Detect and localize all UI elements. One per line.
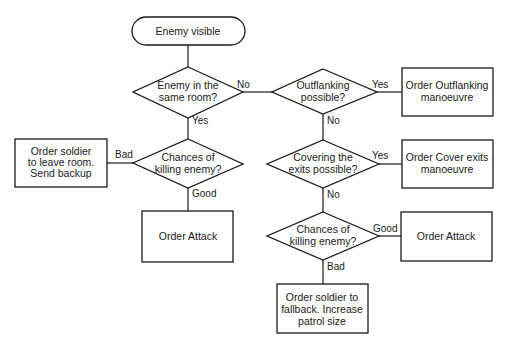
node-covering-line1: Covering the [293,151,353,163]
node-attack-left-text: Order Attack [159,230,218,242]
node-covering: Covering the exits possible? [267,140,379,188]
node-start: Enemy visible [132,17,245,45]
node-order-outflanking: Order Outflanking manoeuvre [402,68,493,116]
node-order-outflanking-line2: manoeuvre [421,91,474,103]
edge-label-no: No [327,189,340,200]
edge-label-no: No [237,79,250,90]
edge-label-yes: Yes [372,150,388,161]
node-order-outflanking-line1: Order Outflanking [406,79,489,91]
node-chances-right-line2: killing enemy? [290,235,357,247]
flowchart: Enemy visible Enemy in the same room? Ou… [0,0,505,344]
edge-label-good: Good [192,188,216,199]
node-same-room-line1: Enemy in the [157,79,218,91]
node-outflanking-line2: possible? [301,91,346,103]
edge-label-yes: Yes [192,115,208,126]
node-fallback-line2: fallback. Increase [281,303,363,315]
edge-label-yes: Yes [372,79,388,90]
node-outflanking: Outflanking possible? [272,69,377,114]
node-fallback-line1: Order soldier to [286,291,359,303]
edge-label-bad: Bad [327,261,345,272]
node-leave-room-line3: Send backup [30,167,91,179]
node-order-cover: Order Cover exits manoeuvre [402,140,493,188]
edge-label-good: Good [373,223,397,234]
node-attack-right-text: Order Attack [417,230,476,242]
node-attack-left: Order Attack [142,211,233,262]
node-same-room-line2: same room? [159,91,218,103]
node-chances-right-line1: Chances of [296,223,349,235]
node-order-cover-line2: manoeuvre [421,163,474,175]
node-fallback: Order soldier to fallback. Increase patr… [277,284,368,333]
node-fallback-line3: patrol size [298,315,346,327]
edge-label-bad: Bad [115,149,133,160]
node-attack-right: Order Attack [401,212,492,261]
node-same-room: Enemy in the same room? [133,67,243,118]
node-outflanking-line1: Outflanking [296,79,349,91]
node-chances-right: Chances of killing enemy? [267,212,379,260]
node-chances-left-line2: killing enemy? [155,163,222,175]
edge-label-no: No [327,115,340,126]
node-chances-left: Chances of killing enemy? [133,139,243,188]
node-order-cover-line1: Order Cover exits [406,151,488,163]
node-leave-room: Order soldier to leave room. Send backup [15,139,107,187]
node-covering-line2: exits possible? [289,163,358,175]
node-start-text: Enemy visible [156,25,221,37]
node-chances-left-line1: Chances of [161,151,214,163]
